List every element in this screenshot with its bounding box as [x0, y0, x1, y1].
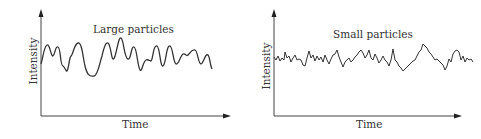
panel-large-particles: Large particles Time Intensity	[0, 0, 240, 139]
y-axis-arrow-icon	[272, 9, 277, 17]
panel-small-particles: Small particles Time Intensity	[240, 0, 481, 139]
x-axis-label: Time	[356, 118, 383, 130]
y-axis-label: Intensity	[260, 42, 272, 89]
x-axis-arrow-icon	[223, 114, 231, 119]
x-axis-label: Time	[122, 118, 149, 130]
intensity-trace	[41, 38, 212, 76]
y-axis-arrow-icon	[39, 9, 44, 17]
panel-title: Large particles	[93, 23, 174, 35]
y-axis-label: Intensity	[27, 37, 39, 84]
x-axis-arrow-icon	[454, 114, 462, 119]
panel-title: Small particles	[333, 28, 413, 40]
intensity-trace	[274, 44, 473, 71]
